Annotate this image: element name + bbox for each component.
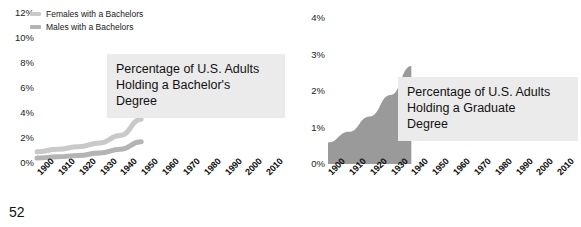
- chart-title-graduate: Percentage of U.S. Adults Holding a Grad…: [398, 77, 578, 141]
- chart-title-bachelors: Percentage of U.S. Adults Holding a Bach…: [107, 54, 285, 118]
- y-axis-tick: 6%: [0, 83, 34, 93]
- title-line: Percentage of U.S. Adults: [407, 84, 569, 100]
- x-axis-bachelors: 1900191019201930194019501960197019801990…: [34, 170, 284, 204]
- y-axis-graduate: 4%3%2%1%0%: [291, 0, 325, 172]
- y-axis-tick: 8%: [0, 58, 34, 68]
- y-axis-tick: 2%: [0, 133, 34, 143]
- y-axis-tick: 10%: [0, 33, 34, 43]
- page-number: 52: [9, 203, 25, 221]
- title-line: Degree: [407, 116, 569, 132]
- y-axis-tick: 3%: [291, 50, 325, 60]
- title-line: Percentage of U.S. Adults: [116, 61, 276, 77]
- y-axis-tick: 4%: [0, 108, 34, 118]
- y-axis-tick: 1%: [291, 123, 325, 133]
- title-line: Holding a Bachelor's: [116, 77, 276, 93]
- y-axis-tick: 4%: [291, 13, 325, 23]
- y-axis-bachelors: 12%10%8%6%4%2%0%: [0, 0, 34, 172]
- y-axis-tick: 0%: [0, 158, 34, 168]
- y-axis-tick: 12%: [0, 8, 34, 18]
- y-axis-tick: 2%: [291, 86, 325, 96]
- y-axis-tick: 0%: [291, 159, 325, 169]
- title-line: Holding a Graduate: [407, 100, 569, 116]
- x-axis-graduate: 1900191019201930194019501960197019801990…: [325, 170, 575, 204]
- title-line: Degree: [116, 93, 276, 109]
